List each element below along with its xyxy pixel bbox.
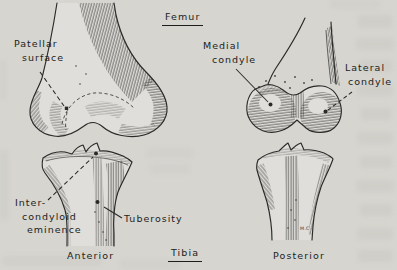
artist-signature: M.C — [300, 226, 310, 231]
tibia-posterior-drawing: M.C — [257, 143, 333, 240]
label-tuberosity-line-1: Tuberosity — [124, 212, 183, 226]
femur-title-wrap: Femur — [162, 10, 203, 26]
caption-anterior: Anterior — [67, 249, 114, 263]
label-medial-condyle-line-2: condyle — [212, 53, 256, 67]
label-lateral-condyle-line-1: Lateral — [345, 61, 392, 75]
femur-posterior-drawing — [247, 18, 344, 136]
label-patellar-surface: Patellar surface — [14, 37, 64, 64]
label-intercondyloid-eminence-line-1: Inter- — [15, 196, 82, 210]
label-intercondyloid-eminence-line-2: condyloid — [22, 210, 82, 224]
label-lateral-condyle-line-2: condyle — [348, 75, 392, 89]
femur-anterior-drawing — [30, 0, 167, 137]
tibia-title-wrap: Tibia — [168, 246, 202, 262]
tibia-title: Tibia — [168, 246, 202, 262]
label-medial-condyle-line-1: Medial — [203, 39, 256, 53]
label-patellar-surface-line-2: surface — [22, 51, 64, 65]
label-tuberosity: Tuberosity — [124, 212, 183, 226]
anatomy-figure-page: M.C Femur Patellar surface Me — [0, 0, 397, 270]
label-patellar-surface-line-1: Patellar — [14, 37, 64, 51]
label-intercondyloid-eminence: Inter- condyloid eminence — [15, 196, 82, 237]
femur-title: Femur — [162, 10, 203, 26]
caption-posterior: Posterior — [273, 249, 325, 263]
label-intercondyloid-eminence-line-3: eminence — [27, 223, 82, 237]
label-lateral-condyle: Lateral condyle — [345, 61, 392, 88]
label-medial-condyle: Medial condyle — [203, 39, 256, 66]
